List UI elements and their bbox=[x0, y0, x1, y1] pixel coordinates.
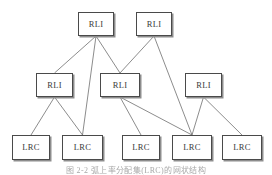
node-t1-rli: RLI bbox=[78, 12, 114, 36]
edge-t1-m2 bbox=[96, 36, 120, 73]
node-label: RLI bbox=[147, 20, 162, 29]
edge-t2-m2 bbox=[120, 36, 154, 73]
node-b2-lrc: LRC bbox=[62, 135, 103, 160]
edge-t1-b2 bbox=[83, 36, 97, 135]
node-label: LRC bbox=[233, 143, 250, 152]
node-label: LRC bbox=[183, 143, 200, 152]
edge-m1-b2 bbox=[55, 97, 83, 135]
node-b1-lrc: LRC bbox=[12, 135, 50, 160]
figure-canvas: RLIRLIRLIRLIRLILRCLRCLRCLRCLRC 图 2-2 弧上率… bbox=[0, 0, 272, 175]
node-m2-rli: RLI bbox=[100, 73, 140, 97]
edge-m3-b5 bbox=[204, 97, 243, 135]
node-label: LRC bbox=[22, 143, 39, 152]
node-b4-lrc: LRC bbox=[172, 135, 212, 160]
node-label: RLI bbox=[89, 20, 104, 29]
node-label: RLI bbox=[113, 81, 128, 90]
node-b5-lrc: LRC bbox=[222, 135, 262, 160]
node-label: LRC bbox=[132, 143, 149, 152]
node-label: RLI bbox=[47, 81, 62, 90]
edge-m1-b1 bbox=[31, 97, 55, 135]
figure-caption: 图 2-2 弧上率分配集(LRC)的网状结构 bbox=[0, 164, 272, 175]
node-t2-rli: RLI bbox=[136, 12, 172, 36]
node-m1-rli: RLI bbox=[36, 73, 73, 97]
node-b3-lrc: LRC bbox=[122, 135, 160, 160]
node-label: LRC bbox=[74, 143, 91, 152]
node-label: RLI bbox=[196, 81, 211, 90]
edge-m3-b4 bbox=[192, 97, 204, 135]
node-m3-rli: RLI bbox=[185, 73, 222, 97]
edge-t1-m1 bbox=[55, 36, 97, 73]
